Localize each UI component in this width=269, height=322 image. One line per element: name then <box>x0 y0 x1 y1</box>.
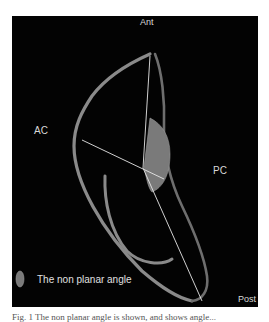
gray-leaf-swatch-icon <box>15 270 25 288</box>
diagram-drawing <box>12 16 258 307</box>
figure-caption: Fig. 1 The non planar angle is shown, an… <box>12 312 262 322</box>
outer-curve <box>74 54 192 301</box>
figure-panel: Ant AC PC Post The non planar angle <box>12 16 258 307</box>
non-planar-angle-shape <box>144 118 170 192</box>
inner-curve <box>105 176 172 263</box>
legend: The non planar angle <box>15 270 135 302</box>
label-anterior: Ant <box>140 17 154 28</box>
legend-text: The non planar angle <box>37 274 137 286</box>
label-posterior-chamber: PC <box>213 165 227 176</box>
label-posterior: Post <box>238 294 256 305</box>
label-anterior-chamber: AC <box>34 125 48 136</box>
